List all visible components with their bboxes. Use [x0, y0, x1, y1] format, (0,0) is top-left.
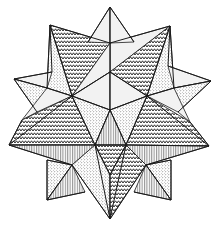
stellated-dodecahedron-figure	[0, 0, 217, 225]
polyhedron-drawing	[0, 0, 217, 225]
